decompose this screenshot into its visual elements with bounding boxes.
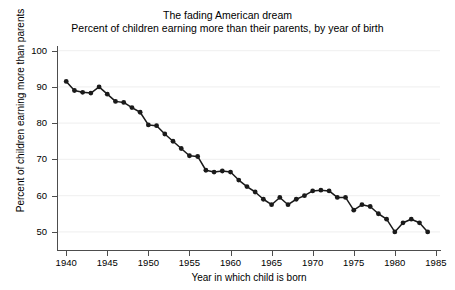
x-tick-mark: [148, 251, 149, 256]
x-tick-label: 1970: [293, 258, 333, 268]
data-point: [302, 193, 307, 198]
x-tick-mark: [107, 251, 108, 256]
chart-title: The fading American dream: [0, 9, 455, 22]
data-point: [360, 202, 365, 207]
y-tick-label: 50: [36, 227, 47, 237]
data-point: [351, 208, 356, 213]
x-tick-mark: [272, 251, 273, 256]
data-point: [97, 84, 102, 89]
data-point: [327, 189, 332, 194]
data-point: [105, 92, 110, 97]
x-tick-label: 1965: [252, 258, 292, 268]
x-tick-mark: [436, 251, 437, 256]
data-point: [343, 195, 348, 200]
data-point: [138, 110, 143, 115]
data-point: [228, 170, 233, 175]
data-point: [392, 229, 397, 234]
y-tick-label: 70: [36, 154, 47, 164]
x-tick-label: 1955: [169, 258, 209, 268]
data-point: [64, 79, 69, 84]
data-point: [261, 197, 266, 202]
data-point: [376, 211, 381, 216]
data-point: [179, 146, 184, 151]
y-tick-mark: [52, 87, 57, 88]
x-tick-label: 1950: [128, 258, 168, 268]
data-point: [130, 105, 135, 110]
data-point: [236, 178, 241, 183]
data-point: [368, 204, 373, 209]
data-point: [72, 88, 77, 93]
x-tick-mark: [189, 251, 190, 256]
y-tick-label: 80: [36, 118, 47, 128]
data-point: [294, 197, 299, 202]
x-tick-mark: [354, 251, 355, 256]
x-tick-mark: [231, 251, 232, 256]
data-point: [146, 123, 151, 128]
data-point: [310, 189, 315, 194]
data-point: [88, 91, 93, 96]
x-axis-line: [57, 250, 441, 251]
x-tick-label: 1985: [416, 258, 455, 268]
chart-subtitle: Percent of children earning more than th…: [0, 22, 455, 35]
data-point: [80, 90, 85, 95]
x-tick-mark: [395, 251, 396, 256]
data-point: [286, 202, 291, 207]
y-tick-label: 60: [36, 191, 47, 201]
y-tick-mark: [52, 232, 57, 233]
x-tick-label: 1960: [211, 258, 251, 268]
chart-title-block: The fading American dream Percent of chi…: [0, 9, 455, 35]
y-tick-mark: [52, 159, 57, 160]
data-point: [187, 153, 192, 158]
chart-figure: The fading American dream Percent of chi…: [0, 0, 455, 290]
data-point: [253, 190, 258, 195]
data-point: [203, 168, 208, 173]
x-tick-label: 1980: [375, 258, 415, 268]
data-point: [384, 217, 389, 222]
data-series: [58, 47, 440, 250]
series-line: [66, 81, 427, 231]
data-point: [318, 188, 323, 193]
plot-area: [58, 47, 440, 250]
data-point: [417, 220, 422, 225]
y-tick-label: 90: [36, 82, 47, 92]
data-point: [113, 99, 118, 104]
y-tick-mark: [52, 51, 57, 52]
data-point: [195, 154, 200, 159]
data-point: [401, 220, 406, 225]
data-point: [245, 184, 250, 189]
data-point: [220, 169, 225, 174]
data-point: [162, 132, 167, 137]
data-point: [335, 195, 340, 200]
data-point: [409, 217, 414, 222]
x-tick-label: 1945: [87, 258, 127, 268]
x-axis-title: Year in which child is born: [58, 272, 440, 283]
data-point: [171, 139, 176, 144]
y-tick-mark: [52, 123, 57, 124]
y-axis-title: Percent of children earning more than pa…: [15, 1, 26, 221]
data-point: [154, 123, 159, 128]
data-point: [121, 100, 126, 105]
data-point: [269, 202, 274, 207]
data-point: [425, 229, 430, 234]
x-tick-label: 1975: [334, 258, 374, 268]
y-tick-label: 100: [31, 46, 47, 56]
x-tick-label: 1940: [46, 258, 86, 268]
data-point: [212, 170, 217, 175]
y-tick-mark: [52, 196, 57, 197]
x-tick-mark: [66, 251, 67, 256]
data-point: [277, 195, 282, 200]
x-tick-mark: [313, 251, 314, 256]
